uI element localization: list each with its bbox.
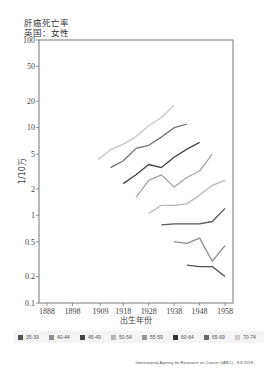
legend-item-70-74: 70-74 (235, 334, 262, 340)
y-tick-label: 20 (27, 97, 35, 106)
plot-frame (39, 40, 233, 303)
series-line-40-44 (174, 238, 225, 261)
x-axis-label: 出生年份 (120, 315, 152, 325)
y-tick-label: 50 (27, 62, 35, 71)
legend-item-60-64: 60-64 (173, 334, 200, 340)
y-axis-label: 1/10万 (18, 158, 27, 184)
y-tick-label: 1 (31, 211, 35, 220)
series-line-45-49 (161, 208, 225, 224)
legend-swatch-icon (49, 335, 54, 340)
legend-item-40-44: 40-44 (49, 334, 76, 340)
x-tick-label: 1918 (115, 307, 131, 316)
x-tick-label: 1928 (141, 307, 157, 316)
legend-item-65-69: 65-69 (204, 334, 231, 340)
legend: 35-3940-4445-4950-5455-5960-6465-6970-74 (14, 331, 264, 343)
legend-label: 65-69 (212, 334, 225, 340)
legend-swatch-icon (204, 335, 209, 340)
legend-label: 35-39 (26, 334, 39, 340)
y-tick-label: 0.2 (25, 272, 35, 281)
legend-swatch-icon (80, 335, 85, 340)
legend-swatch-icon (18, 335, 23, 340)
y-tick-label: 5 (31, 150, 35, 159)
legend-swatch-icon (173, 335, 178, 340)
x-tick-label: 1958 (217, 307, 233, 316)
y-tick-label: 2 (31, 185, 35, 194)
legend-swatch-icon (111, 335, 116, 340)
x-tick-label: 1938 (166, 307, 182, 316)
legend-item-50-54: 50-54 (111, 334, 138, 340)
legend-label: 50-54 (119, 334, 132, 340)
legend-label: 45-49 (88, 334, 101, 340)
y-tick-label: 10 (27, 123, 35, 132)
legend-label: 55-59 (150, 334, 163, 340)
y-tick-label: 0.5 (25, 238, 35, 247)
legend-label: 40-44 (57, 334, 70, 340)
series-line-70-74 (98, 105, 174, 160)
y-tick-label: 0.1 (25, 299, 35, 308)
y-tick-label: 100 (23, 36, 35, 45)
series-line-65-69 (111, 124, 187, 168)
credit-text: International Agency for Research on Can… (135, 360, 253, 365)
line-chart: 1005020105210.50.20.11888189819091918192… (0, 0, 267, 369)
series-line-35-39 (187, 265, 225, 276)
x-tick-label: 1898 (64, 307, 80, 316)
legend-item-55-59: 55-59 (142, 334, 169, 340)
legend-swatch-icon (142, 335, 147, 340)
x-tick-label: 1909 (92, 307, 108, 316)
legend-item-45-49: 45-49 (80, 334, 107, 340)
legend-label: 60-64 (181, 334, 194, 340)
legend-label: 70-74 (243, 334, 256, 340)
x-tick-label: 1948 (192, 307, 208, 316)
legend-swatch-icon (235, 335, 240, 340)
legend-item-35-39: 35-39 (18, 334, 45, 340)
series-line-50-54 (149, 180, 225, 213)
x-tick-label: 1888 (39, 307, 55, 316)
series-line-55-59 (136, 154, 212, 197)
